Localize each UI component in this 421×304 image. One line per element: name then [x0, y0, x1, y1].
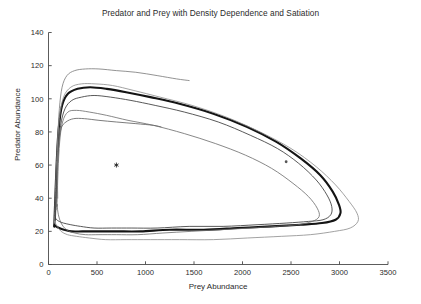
equilibrium-point [114, 163, 118, 168]
y-axis-tick-label: 60 [35, 161, 43, 170]
figure-container: Predator and Prey with Density Dependenc… [0, 0, 421, 304]
y-axis-tick-label: 20 [35, 227, 43, 236]
x-axis-tick-label: 500 [91, 268, 104, 277]
plot-canvas: 0204060801001201400500100015002000250030… [0, 0, 421, 304]
data-series-group [54, 69, 358, 240]
x-axis-tick-label: 3000 [331, 268, 348, 277]
y-axis-tick-label: 140 [31, 28, 44, 37]
x-axis-tick-label: 2500 [283, 268, 300, 277]
series-trajectory-outermost [54, 84, 358, 240]
y-axis-tick-label: 0 [39, 260, 43, 269]
y-axis-tick-label: 120 [31, 61, 44, 70]
y-axis-tick-label: 80 [35, 128, 43, 137]
series-limit-cycle [54, 87, 341, 231]
series-trajectory-inner-1 [55, 95, 332, 228]
y-axis-tick-label: 100 [31, 95, 44, 104]
x-axis-tick-label: 2000 [234, 268, 251, 277]
series-trajectory-middle [57, 110, 320, 234]
series-trajectory-inner-2 [56, 118, 161, 209]
markers-group [114, 160, 287, 167]
x-axis-tick-label: 0 [46, 268, 50, 277]
x-axis-tick-label: 1000 [137, 268, 154, 277]
x-axis-tick-label: 3500 [380, 268, 397, 277]
initial-condition-dot [285, 160, 288, 163]
y-axis-tick-label: 40 [35, 194, 43, 203]
x-axis-tick-label: 1500 [186, 268, 203, 277]
